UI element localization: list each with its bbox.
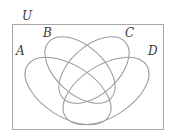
venn-diagram: U A B C D (0, 0, 173, 139)
universe-box (13, 25, 164, 130)
set-b-label: B (43, 27, 52, 39)
set-c-label: C (125, 27, 134, 39)
set-d-label: D (148, 45, 158, 57)
universe-label: U (22, 10, 32, 22)
set-a-label: A (16, 45, 25, 57)
